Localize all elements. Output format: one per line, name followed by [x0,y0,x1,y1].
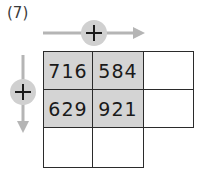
addition-grid: 716 584 629 921 [43,51,194,168]
answer-cell-r2c0[interactable] [43,128,93,168]
grid-cell-r0c1: 584 [93,51,144,90]
grid-cell-r1c1: 921 [93,90,144,128]
grid-cell-r0c0: 716 [43,51,93,90]
grid-blank-corner [144,128,194,168]
answer-cell-r1c2[interactable] [144,90,194,128]
vertical-plus-icon [10,79,36,105]
answer-cell-r0c2[interactable] [144,51,194,90]
grid-cell-r1c0: 629 [43,90,93,128]
horizontal-plus-icon [81,20,107,46]
answer-cell-r2c1[interactable] [93,128,144,168]
